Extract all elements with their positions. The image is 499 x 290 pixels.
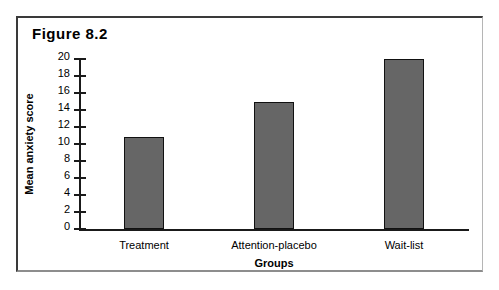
bar-attention-placebo — [254, 102, 294, 230]
y-axis-title: Mean anxiety score — [22, 59, 36, 229]
y-axis-tick-mark — [74, 75, 86, 77]
chart-plot-area: Mean anxiety score 02468101214161820 Tre… — [79, 59, 469, 229]
figure-frame: Figure 8.2 Mean anxiety score 0246810121… — [16, 16, 483, 272]
y-axis-tick-label: 0 — [48, 221, 70, 232]
x-axis-tick-label: Wait-list — [385, 239, 424, 251]
y-axis-tick-mark — [74, 211, 86, 213]
figure-caption: Figure 8.2 — [32, 25, 108, 42]
y-axis-tick-mark — [74, 194, 86, 196]
y-axis-tick-label: 16 — [48, 85, 70, 96]
y-axis-tick-label: 2 — [48, 204, 70, 215]
x-axis-line — [79, 229, 469, 231]
bar-treatment — [124, 137, 164, 229]
y-axis-tick-label: 20 — [48, 51, 70, 62]
y-axis-tick-label: 14 — [48, 102, 70, 113]
y-axis-title-text: Mean anxiety score — [23, 93, 35, 195]
y-axis-tick-mark — [74, 143, 86, 145]
y-axis-tick-label: 10 — [48, 136, 70, 147]
y-axis-tick-mark — [74, 126, 86, 128]
x-axis-tick-label: Treatment — [119, 239, 169, 251]
y-axis-tick-label: 8 — [48, 153, 70, 164]
y-axis-tick-label: 4 — [48, 187, 70, 198]
bar-wait-list — [384, 59, 424, 229]
y-axis-tick-mark — [74, 92, 86, 94]
x-axis-title: Groups — [79, 257, 469, 269]
x-axis-tick-label: Attention-placebo — [231, 239, 317, 251]
y-axis-tick-mark — [74, 228, 86, 230]
y-axis-tick-label: 12 — [48, 119, 70, 130]
y-axis-tick-mark — [74, 160, 86, 162]
y-axis-tick-label: 6 — [48, 170, 70, 181]
y-axis-tick-mark — [74, 109, 86, 111]
y-axis-tick-mark — [74, 58, 86, 60]
y-axis-tick-label: 18 — [48, 68, 70, 79]
y-axis-tick-mark — [74, 177, 86, 179]
